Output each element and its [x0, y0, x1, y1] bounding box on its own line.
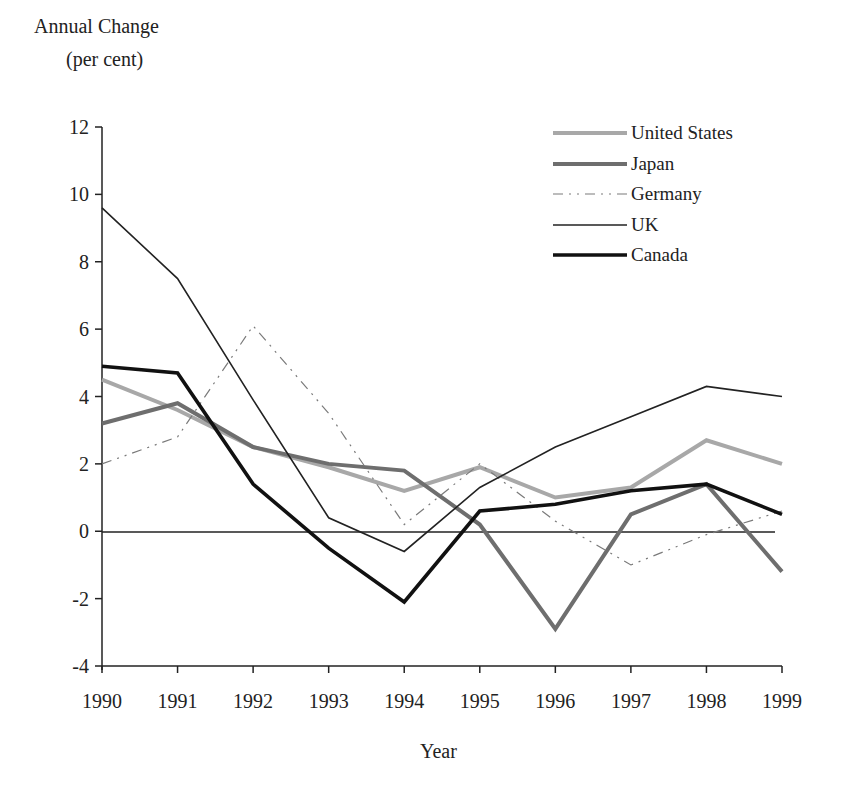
x-axis-ticks: 1990199119921993199419951996199719981999 [82, 666, 802, 712]
y-tick-label: 10 [69, 183, 89, 205]
x-tick-label: 1990 [82, 690, 122, 712]
y-tick-label: 6 [79, 318, 89, 340]
x-tick-label: 1999 [762, 690, 802, 712]
legend-item-japan: Japan [553, 149, 733, 180]
legend-label: United States [631, 122, 733, 144]
x-tick-label: 1994 [384, 690, 424, 712]
y-tick-label: -4 [72, 655, 89, 677]
legend-swatch [553, 127, 627, 139]
series-line-canada [102, 366, 782, 602]
legend-label: Germany [631, 183, 702, 205]
y-tick-label: 12 [69, 116, 89, 138]
legend-swatch [553, 188, 627, 200]
series-line-japan [102, 403, 782, 629]
y-tick-label: 0 [79, 520, 89, 542]
legend-item-united-states: United States [553, 118, 733, 149]
y-tick-label: 8 [79, 251, 89, 273]
legend-label: Canada [631, 244, 688, 266]
x-tick-label: 1992 [233, 690, 273, 712]
legend-label: UK [631, 214, 658, 236]
legend-label: Japan [631, 153, 674, 175]
series-line-germany [102, 326, 782, 565]
y-tick-label: 4 [79, 386, 89, 408]
x-tick-label: 1991 [158, 690, 198, 712]
x-axis-title: Year [420, 740, 457, 763]
x-tick-label: 1993 [309, 690, 349, 712]
x-tick-label: 1997 [611, 690, 651, 712]
y-tick-label: 2 [79, 453, 89, 475]
y-axis-ticks: 121086420-2-4 [69, 116, 102, 677]
x-tick-label: 1996 [535, 690, 575, 712]
legend-swatch [553, 249, 627, 261]
legend-item-uk: UK [553, 210, 733, 241]
legend-swatch [553, 219, 627, 231]
series-lines [102, 208, 782, 629]
x-tick-label: 1995 [460, 690, 500, 712]
legend: United StatesJapanGermanyUKCanada [553, 118, 733, 271]
legend-item-germany: Germany [553, 179, 733, 210]
y-tick-label: -2 [72, 588, 89, 610]
x-tick-label: 1998 [686, 690, 726, 712]
legend-swatch [553, 158, 627, 170]
legend-item-canada: Canada [553, 240, 733, 271]
